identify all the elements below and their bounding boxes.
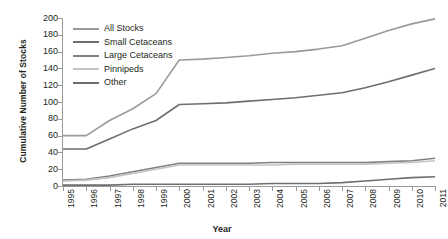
x-tick-mark [63, 187, 64, 191]
y-tick-mark [58, 18, 62, 19]
x-tick-label: 1997 [114, 189, 123, 219]
x-tick-mark [249, 187, 250, 191]
y-tick-label: 140 [43, 64, 58, 73]
legend-color-swatch [73, 41, 99, 43]
x-tick-mark [156, 187, 157, 191]
x-tick-label: 1999 [160, 189, 169, 219]
x-tick-label: 2004 [276, 189, 285, 219]
legend-item-label: Other [104, 78, 127, 87]
legend-color-swatch [73, 68, 99, 70]
legend-item[interactable]: All Stocks [73, 22, 173, 36]
y-tick-label: 180 [43, 30, 58, 39]
x-tick-label: 2009 [393, 189, 402, 219]
legend-item-label: Small Cetaceans [104, 38, 172, 47]
x-tick-label: 2005 [300, 189, 309, 219]
legend-item[interactable]: Other [73, 76, 173, 90]
x-tick-mark [296, 187, 297, 191]
y-tick-label: 20 [48, 165, 58, 174]
x-tick-mark [110, 187, 111, 191]
legend-item-label: Pinnipeds [104, 65, 144, 74]
x-tick-mark [203, 187, 204, 191]
y-tick-label: 100 [43, 98, 58, 107]
y-tick-label: 200 [43, 14, 58, 23]
x-tick-label: 2002 [230, 189, 239, 219]
x-tick-label: 2001 [207, 189, 216, 219]
x-tick-mark [342, 187, 343, 191]
x-tick-mark [435, 187, 436, 191]
x-tick-mark [412, 187, 413, 191]
y-tick-label: 160 [43, 47, 58, 56]
x-tick-mark [226, 187, 227, 191]
y-tick-mark [58, 52, 62, 53]
x-tick-mark [365, 187, 366, 191]
x-tick-label: 2008 [369, 189, 378, 219]
y-tick-label: 80 [48, 114, 58, 123]
legend-item-label: Large Cetaceans [104, 51, 173, 60]
x-tick-mark [319, 187, 320, 191]
x-axis-tick-labels: 1995199619971998199920002001200220032004… [0, 190, 444, 222]
x-axis-title: Year [0, 224, 444, 234]
legend-item[interactable]: Large Cetaceans [73, 49, 173, 63]
y-tick-label: 40 [48, 148, 58, 157]
y-tick-label: 60 [48, 131, 58, 140]
x-tick-label: 2000 [183, 189, 192, 219]
x-tick-label: 2011 [439, 189, 448, 219]
x-tick-mark [389, 187, 390, 191]
x-tick-label: 2003 [253, 189, 262, 219]
legend-item[interactable]: Small Cetaceans [73, 36, 173, 50]
series-line [63, 177, 435, 185]
legend-color-swatch [73, 55, 99, 57]
legend-item-label: All Stocks [104, 24, 144, 33]
legend-color-swatch [73, 82, 99, 84]
x-tick-label: 2007 [346, 189, 355, 219]
y-axis-tick-labels: 020406080100120140160180200 [24, 12, 58, 192]
x-tick-label: 1996 [90, 189, 99, 219]
y-tick-mark [58, 102, 62, 103]
x-tick-label: 2010 [416, 189, 425, 219]
legend-item[interactable]: Pinnipeds [73, 63, 173, 77]
legend-color-swatch [73, 28, 99, 30]
y-tick-mark [58, 68, 62, 69]
x-tick-mark [86, 187, 87, 191]
y-tick-mark [58, 119, 62, 120]
y-tick-mark [58, 136, 62, 137]
x-tick-mark [133, 187, 134, 191]
x-tick-mark [272, 187, 273, 191]
y-tick-mark [58, 169, 62, 170]
x-tick-label: 1995 [67, 189, 76, 219]
x-tick-label: 1998 [137, 189, 146, 219]
legend: All StocksSmall CetaceansLarge Cetaceans… [73, 22, 173, 90]
y-tick-mark [58, 85, 62, 86]
y-tick-mark [58, 186, 62, 187]
x-tick-mark [179, 187, 180, 191]
series-line [63, 158, 435, 180]
y-tick-mark [58, 35, 62, 36]
y-tick-mark [58, 152, 62, 153]
y-tick-label: 120 [43, 81, 58, 90]
x-tick-label: 2006 [323, 189, 332, 219]
